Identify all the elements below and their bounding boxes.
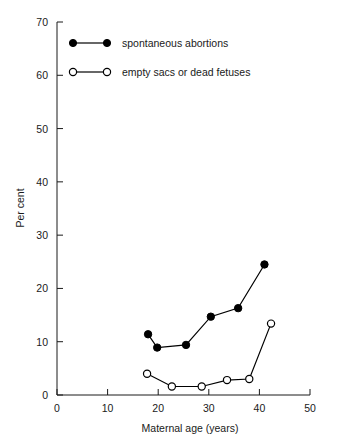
x-axis-ticks: 01020304050 (54, 389, 316, 414)
y-tick-label: 30 (36, 229, 48, 241)
legend-marker-open-circle (69, 68, 76, 75)
chart-figure: 010203040506070 01020304050 Per cent Mat… (0, 0, 338, 443)
chart-canvas: 010203040506070 01020304050 Per cent Mat… (0, 0, 338, 443)
data-point-open-circle (198, 383, 205, 390)
y-tick-label: 40 (36, 176, 48, 188)
x-tick-label: 30 (203, 402, 215, 414)
data-point-filled-circle (261, 261, 268, 268)
data-series-layer (143, 261, 274, 390)
data-point-open-circle (168, 383, 175, 390)
data-point-filled-circle (144, 331, 151, 338)
legend-label-spontaneous-abortions: spontaneous abortions (122, 37, 228, 49)
y-axis-ticks: 010203040506070 (36, 16, 63, 401)
data-point-filled-circle (153, 344, 160, 351)
legend-item-empty-sacs-or-dead-fetuses: empty sacs or dead fetuses (69, 66, 250, 78)
y-tick-label: 0 (42, 389, 48, 401)
y-axis-title: Per cent (14, 188, 26, 227)
legend-marker-open-circle (103, 68, 110, 75)
series-spontaneous-abortions (144, 261, 268, 352)
data-point-open-circle (246, 375, 253, 382)
x-tick-label: 20 (152, 402, 164, 414)
x-tick-label: 50 (304, 402, 316, 414)
data-point-open-circle (223, 376, 230, 383)
legend-item-spontaneous-abortions: spontaneous abortions (69, 37, 228, 49)
legend-label-empty-sacs-or-dead-fetuses: empty sacs or dead fetuses (122, 66, 250, 78)
y-tick-label: 70 (36, 16, 48, 28)
data-point-open-circle (143, 370, 150, 377)
x-tick-label: 0 (54, 402, 60, 414)
chart-legend: spontaneous abortions empty sacs or dead… (69, 37, 250, 78)
series-empty-sacs-or-dead-fetuses (143, 320, 274, 390)
y-tick-label: 20 (36, 282, 48, 294)
data-point-filled-circle (234, 304, 241, 311)
data-point-filled-circle (182, 341, 189, 348)
x-axis-title: Maternal age (years) (142, 422, 239, 434)
data-point-filled-circle (207, 313, 214, 320)
y-tick-label: 60 (36, 69, 48, 81)
x-tick-label: 10 (102, 402, 114, 414)
y-tick-label: 10 (36, 336, 48, 348)
data-point-open-circle (267, 320, 274, 327)
legend-marker-filled-circle (69, 39, 76, 46)
legend-marker-filled-circle (103, 39, 110, 46)
x-tick-label: 40 (254, 402, 266, 414)
series-line (148, 265, 264, 348)
y-tick-label: 50 (36, 123, 48, 135)
